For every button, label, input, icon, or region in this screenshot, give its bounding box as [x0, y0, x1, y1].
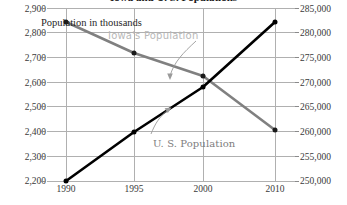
data-point-iowa-1995	[132, 51, 137, 56]
callout-arrow-iowa	[170, 41, 196, 76]
series-line-us	[66, 22, 275, 181]
data-point-us-1990	[64, 179, 69, 184]
callout-arrowhead-iowa	[167, 73, 173, 80]
data-point-iowa-2010	[273, 128, 278, 133]
annotation-us-label: U. S. Population	[153, 138, 235, 149]
annotation-iowa-label: Iowa's Population	[108, 30, 198, 41]
data-point-us-2010	[273, 20, 278, 25]
data-point-us-2000	[201, 85, 206, 90]
chart-container: Iowa and U. S. Populations 2,900 2,800 2…	[0, 0, 347, 205]
callout-arrow-us	[151, 110, 168, 134]
data-point-us-1995	[132, 130, 137, 135]
annotation-units-note: Population in thousands	[41, 17, 142, 28]
data-point-iowa-2000	[201, 74, 206, 79]
